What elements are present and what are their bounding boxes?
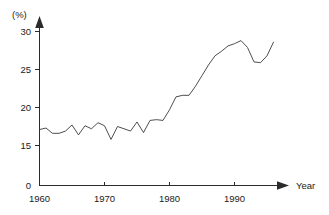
y-tick-label-0: 0	[26, 180, 31, 191]
chart-container: 30 25 20 15 0 1960 1970 1980 1990 (%) Ye…	[0, 0, 329, 215]
line-chart: 30 25 20 15 0 1960 1970 1980 1990 (%) Ye…	[0, 0, 329, 215]
x-tick-label-1960: 1960	[29, 193, 50, 204]
y-axis-unit-label: (%)	[12, 9, 27, 20]
y-tick-label-30: 30	[20, 26, 31, 37]
x-tick-label-1980: 1980	[159, 193, 180, 204]
y-tick-label-25: 25	[20, 64, 31, 75]
data-line-series	[40, 41, 274, 140]
y-tick-label-20: 20	[20, 102, 31, 113]
y-axis-arrow-icon	[35, 16, 44, 28]
x-axis-arrow-icon	[277, 181, 289, 190]
y-tick-label-15: 15	[20, 140, 31, 151]
x-tick-label-1970: 1970	[94, 193, 115, 204]
x-axis-title: Year	[296, 180, 315, 191]
x-tick-label-1990: 1990	[224, 193, 245, 204]
